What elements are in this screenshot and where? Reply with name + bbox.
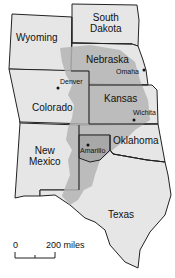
scale-end-label: 200 miles [46,240,85,250]
city-label-wichita: Wichita [133,109,156,116]
label-new-mexico: New Mexico [29,145,61,167]
label-wyoming: Wyoming [16,32,58,43]
label-line: Mexico [29,156,61,167]
city-dot-denver [57,87,60,90]
city-label-amarillo: Amarillo [80,147,105,154]
label-south-dakota: South Dakota [90,12,122,34]
label-line: Dakota [90,23,122,34]
label-kansas: Kansas [104,93,137,104]
label-line: South [90,12,122,23]
label-colorado: Colorado [32,102,73,113]
label-texas: Texas [108,209,134,220]
label-nebraska: Nebraska [86,54,129,65]
label-line: New [29,145,61,156]
scale-start-label: 0 [13,240,18,250]
map: South Dakota Wyoming Nebraska Colorado K… [0,0,175,278]
city-dot-wichita [133,119,136,122]
city-dot-omaha [143,69,146,72]
city-label-denver: Denver [60,78,83,85]
city-label-omaha: Omaha [116,68,139,75]
label-oklahoma: Oklahoma [113,135,159,146]
